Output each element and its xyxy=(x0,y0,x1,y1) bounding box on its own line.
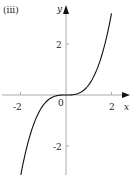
panel-label: (iii) xyxy=(3,5,19,15)
y-axis-label: y xyxy=(56,4,63,14)
x-tick-label-2: 2 xyxy=(109,102,115,112)
origin-label: 0 xyxy=(58,98,64,108)
cubic-graph: (iii) x y -2 2 0 2 -2 xyxy=(0,0,132,175)
y-axis-arrow-icon xyxy=(63,5,69,14)
x-tick-label-neg2: -2 xyxy=(13,102,22,112)
x-axis-label: x xyxy=(124,102,129,112)
x-axis-arrow-icon xyxy=(122,92,130,98)
y-tick-label-2: 2 xyxy=(56,40,62,50)
y-tick-label-neg2: -2 xyxy=(53,142,62,152)
